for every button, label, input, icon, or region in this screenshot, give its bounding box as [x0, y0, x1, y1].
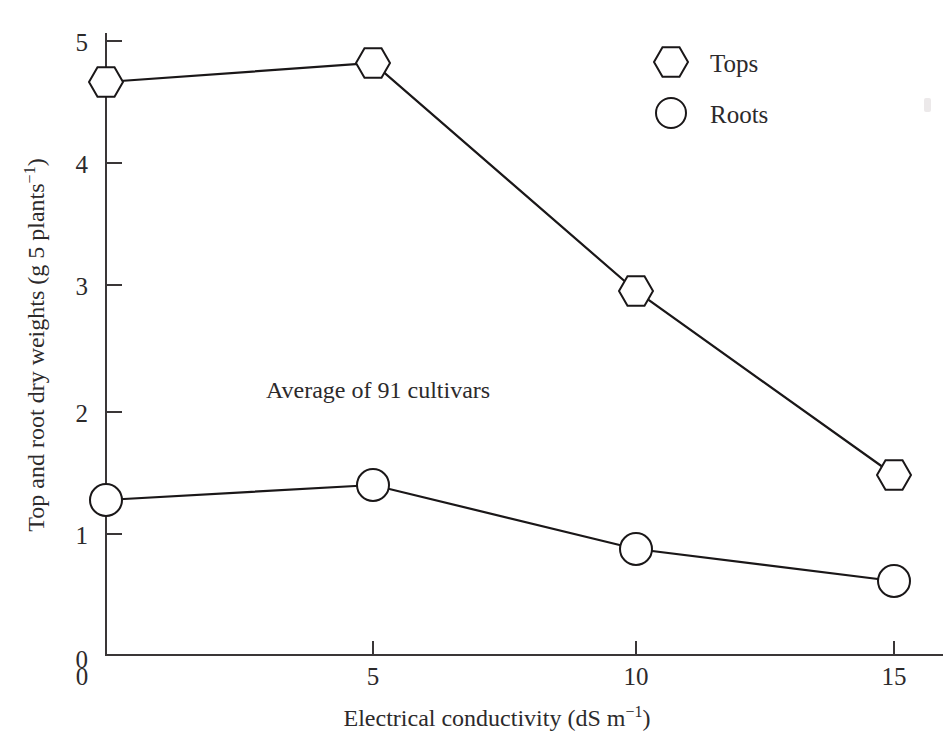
y-tick-label-1: 1 — [76, 522, 89, 549]
data-point-roots-3 — [878, 565, 910, 597]
x-axis-title-main: Electrical conductivity (dS m — [344, 705, 626, 731]
data-point-tops-0 — [89, 67, 123, 96]
y-axis-title-main: Top and root dry weights (g 5 plants — [23, 183, 49, 531]
series-tops-line — [106, 63, 894, 475]
series-roots — [90, 469, 910, 597]
hexagon-marker-icon — [654, 47, 688, 76]
x-axis-title-superscript: −1 — [625, 703, 642, 720]
y-axis-title-superscript: −1 — [21, 166, 38, 183]
y-tick-label-2: 2 — [76, 400, 89, 427]
axis-lines — [106, 34, 942, 655]
chart-svg: 5 4 3 2 1 0 0 5 10 15 Electrical conduct… — [0, 0, 951, 744]
y-axis-tick-labels: 5 4 3 2 1 0 — [76, 29, 89, 673]
x-tick-label-10: 10 — [624, 663, 649, 690]
circle-marker-icon — [656, 98, 686, 128]
data-point-tops-2 — [619, 276, 653, 305]
series-tops — [89, 48, 911, 489]
y-tick-label-3: 3 — [76, 273, 89, 300]
x-axis-title-end: ) — [642, 705, 650, 731]
legend-label-roots: Roots — [710, 101, 768, 128]
data-point-roots-0 — [90, 484, 122, 516]
plot-annotation: Average of 91 cultivars — [266, 377, 490, 403]
x-axis-title: Electrical conductivity (dS m−1) — [344, 703, 651, 731]
y-axis-title: Top and root dry weights (g 5 plants−1) — [21, 158, 49, 531]
y-tick-label-5: 5 — [76, 29, 89, 56]
y-axis-ticks — [106, 41, 122, 534]
chart-figure: 5 4 3 2 1 0 0 5 10 15 Electrical conduct… — [0, 0, 951, 744]
series-roots-line — [106, 485, 894, 581]
legend-item-roots: Roots — [656, 98, 768, 128]
x-tick-label-15: 15 — [882, 663, 907, 690]
legend-label-tops: Tops — [710, 50, 758, 77]
data-point-tops-3 — [877, 460, 911, 489]
x-axis-ticks — [373, 641, 894, 655]
data-point-roots-1 — [357, 469, 389, 501]
y-axis-title-end: ) — [23, 158, 49, 166]
x-axis-tick-labels: 0 5 10 15 — [76, 663, 907, 690]
chart-legend: Tops Roots — [654, 47, 768, 128]
legend-item-tops: Tops — [654, 47, 758, 77]
x-tick-label-5: 5 — [367, 663, 380, 690]
data-point-tops-1 — [356, 48, 390, 77]
x-tick-label-0: 0 — [76, 663, 89, 690]
scan-artifact — [924, 98, 931, 112]
data-point-roots-2 — [620, 533, 652, 565]
y-tick-label-4: 4 — [76, 151, 89, 178]
